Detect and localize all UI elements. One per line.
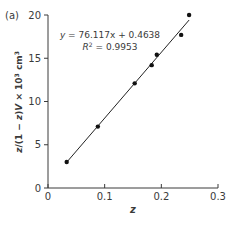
panel-label: (a) xyxy=(5,10,19,21)
scatter-chart: (a) 05101520 00.10.20.3 z/(1 − z)V × 103… xyxy=(0,0,246,225)
equation-annotation: y = 76.117x + 0.4638 xyxy=(59,30,160,40)
x-tick-label: 0.1 xyxy=(97,191,113,202)
y-axis: 05101520 xyxy=(28,10,48,194)
data-point xyxy=(150,63,154,67)
y-tick-label: 0 xyxy=(35,183,41,194)
y-axis-label: z/(1 − z)V × 103 cm3 xyxy=(13,51,25,154)
data-point xyxy=(187,13,191,17)
x-tick-label: 0.2 xyxy=(153,191,169,202)
x-tick-label: 0.3 xyxy=(210,191,226,202)
y-tick-label: 10 xyxy=(28,96,41,107)
r-squared-annotation: R2 = 0.9953 xyxy=(83,41,138,53)
y-tick-label: 20 xyxy=(28,10,41,21)
x-tick-label: 0 xyxy=(45,191,51,202)
data-point xyxy=(65,160,69,164)
data-point xyxy=(179,33,183,37)
y-tick-label: 15 xyxy=(28,53,41,64)
y-tick-label: 5 xyxy=(35,139,41,150)
x-axis: 00.10.20.3 xyxy=(45,184,226,202)
x-axis-label: z xyxy=(129,204,136,215)
data-point xyxy=(133,81,137,85)
data-point xyxy=(155,53,159,57)
data-point xyxy=(96,124,100,128)
